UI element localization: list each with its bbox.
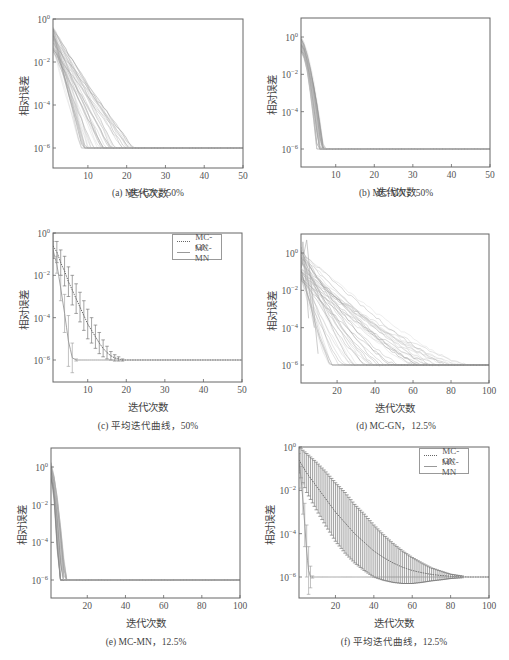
y-tick-label: 10−4 (280, 528, 299, 540)
caption-d: (d) MC-GN，12.5% (356, 418, 436, 432)
x-tick-label: 100 (482, 601, 496, 611)
x-tick-label: 80 (446, 601, 456, 611)
plot-area-f (0, 0, 509, 660)
legend-item-mc-mn: MC-MN (424, 461, 464, 472)
caption-c: (c) 平均迭代曲线，50% (98, 418, 198, 432)
x-tick-label: 20 (331, 601, 341, 611)
y-tick-label: 10−6 (280, 571, 299, 583)
x-axis-label: 迭代次数 (374, 615, 414, 630)
legend-label: MC-MN (442, 457, 464, 477)
dotted-line-swatch-icon (424, 455, 437, 456)
y-axis-label: 相对误差 (262, 505, 277, 545)
y-tick-label: 100 (283, 441, 299, 453)
y-tick-label: 10−2 (280, 484, 299, 496)
caption-a: (a) MC-GN，50% (112, 185, 184, 199)
legend-f: MC-GNMC-MN (419, 448, 469, 474)
caption-e: (e) MC-MN，12.5% (106, 634, 187, 648)
x-tick-label: 40 (369, 601, 379, 611)
x-tick-label: 60 (407, 601, 417, 611)
solid-line-swatch-icon (424, 466, 437, 467)
caption-b: (b) MC-MN，50% (359, 185, 433, 199)
caption-f: (f) 平均迭代曲线，12.5% (341, 634, 447, 648)
